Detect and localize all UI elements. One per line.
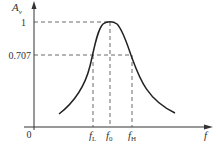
f0-label: f0 bbox=[106, 129, 113, 143]
fL-label: fL bbox=[89, 129, 96, 143]
fH-label: fH bbox=[128, 129, 136, 143]
x-axis-label: f bbox=[204, 129, 209, 141]
y-axis-label: Av bbox=[11, 1, 23, 16]
y-axis-arrow-icon bbox=[32, 1, 37, 9]
response-curve bbox=[59, 22, 175, 114]
tick-label-0707: 0.707 bbox=[9, 50, 32, 61]
frequency-response-diagram: Av 1 0.707 0 fL f0 fH f bbox=[0, 0, 219, 148]
tick-label-1: 1 bbox=[21, 17, 26, 28]
origin-label: 0 bbox=[27, 129, 32, 140]
